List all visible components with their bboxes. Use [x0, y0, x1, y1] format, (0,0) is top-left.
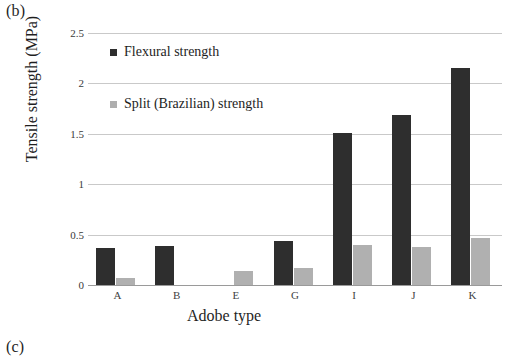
- bar: [392, 115, 411, 285]
- x-tick-label: G: [268, 289, 322, 301]
- y-tick-label: 2: [46, 77, 84, 89]
- figure-panel-b: (b) (c) 00.511.522.5 Tensile strength (M…: [0, 0, 514, 363]
- bar: [471, 238, 490, 285]
- y-tick-label: 2.5: [46, 27, 84, 39]
- gridline-y-1: [88, 184, 502, 185]
- legend-item-label: Split (Brazilian) strength: [124, 96, 263, 112]
- bar: [294, 268, 313, 285]
- bar: [451, 68, 470, 285]
- y-tick-label: 0: [46, 279, 84, 291]
- x-tick-label: B: [150, 289, 204, 301]
- legend-item: Split (Brazilian) strength: [110, 96, 340, 112]
- x-tick-label: A: [91, 289, 145, 301]
- x-tick-label: K: [445, 289, 499, 301]
- gridline-y-0-5: [88, 235, 502, 236]
- bar: [155, 246, 174, 285]
- x-tick-label: E: [209, 289, 263, 301]
- y-tick-label: 0.5: [46, 229, 84, 241]
- bar: [234, 271, 253, 285]
- x-tick-label: J: [386, 289, 440, 301]
- square-swatch-icon: [110, 49, 117, 56]
- bar: [412, 247, 431, 285]
- bar: [333, 133, 352, 285]
- y-axis-title: Tensile strength (MPa): [23, 0, 41, 204]
- bar: [274, 241, 293, 285]
- legend-item-label: Flexural strength: [124, 44, 219, 60]
- x-axis-title: Adobe type: [187, 307, 261, 325]
- x-tick-label: I: [327, 289, 381, 301]
- x-axis-baseline: [88, 285, 502, 286]
- y-axis-tick-labels: 00.511.522.5: [40, 0, 84, 363]
- gridline-y-2-5: [88, 33, 502, 34]
- bar: [353, 245, 372, 285]
- bar: [116, 278, 135, 285]
- y-tick-label: 1.5: [46, 128, 84, 140]
- panel-letter-c: (c): [6, 338, 24, 356]
- bar: [96, 248, 115, 285]
- square-swatch-icon: [110, 101, 117, 108]
- legend-item: Flexural strength: [110, 44, 340, 60]
- y-tick-label: 1: [46, 178, 84, 190]
- chart-legend: Flexural strengthSplit (Brazilian) stren…: [110, 44, 340, 148]
